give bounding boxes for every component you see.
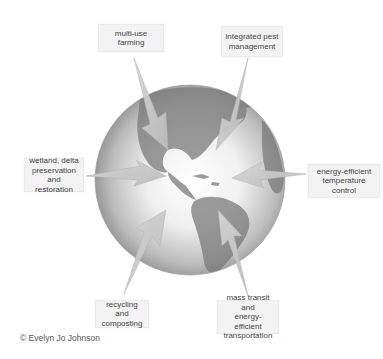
copyright-credit: © Evelyn Jo Johnson <box>20 333 100 343</box>
label-multi-use-farming: multi-use farming <box>98 24 164 52</box>
label-mass-transit: mass transit and energy-efficient transp… <box>217 300 279 334</box>
label-energy-efficient-temperature-control: energy-efficient temperature control <box>308 164 380 198</box>
label-wetland-delta-preservation: wetland, delta preservation and restorat… <box>24 158 84 192</box>
label-integrated-pest-management: integrated pest management <box>221 26 283 57</box>
label-recycling-and-composting: recycling and composting <box>95 300 149 328</box>
